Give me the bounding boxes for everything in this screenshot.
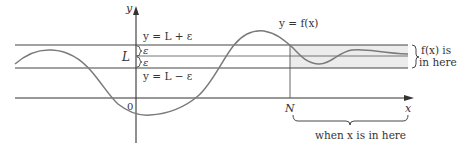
epsilon-lower-brace-icon [137, 57, 142, 67]
domain-label: when x is in here [315, 129, 406, 141]
epsilon-upper-brace-icon [137, 46, 142, 56]
epsilon-upper-label: ε [143, 45, 148, 56]
upper-line-label: y = L + ε [142, 30, 192, 42]
N-label: N [284, 102, 295, 115]
curve-label: y = f(x) [278, 17, 318, 29]
limit-diagram: y x 0 L N y = L + ε y = L − ε ε ε y = f(… [0, 0, 465, 153]
L-label: L [121, 50, 130, 64]
lower-line-label: y = L − ε [142, 70, 192, 82]
x-axis-label: x [405, 102, 412, 115]
epsilon-lower-label: ε [143, 57, 148, 68]
y-axis-label: y [125, 2, 133, 15]
origin-label: 0 [127, 101, 133, 112]
range-label-line1: f(x) is [421, 44, 451, 56]
x-axis-arrow-icon [404, 95, 414, 101]
y-axis-arrow-icon [133, 6, 139, 15]
function-curve [15, 31, 408, 115]
range-brace-icon [412, 45, 419, 68]
domain-brace-icon [293, 115, 408, 125]
range-label-line2: in here [419, 56, 457, 68]
shaded-band-region [290, 45, 408, 68]
